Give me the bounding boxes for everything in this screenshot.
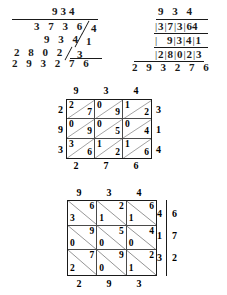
lat2-cell-1-1: 5 0 [97,226,126,251]
tl-product: 2 9 3 2 7 6 [12,58,92,69]
lat2-cell-2-2: 2 1 [127,250,156,275]
tl-partial-1-digits: 3 7 3 6 [34,21,85,32]
lat1-top-label-0: 9 [74,86,79,96]
tl-multiplicand: 934 [52,6,78,17]
lat1-cell-2-0: 3 6 [67,139,95,158]
lat2-top-label-2: 4 [137,188,142,198]
lat1-right-label-0: 3 [156,105,161,115]
tr-partial-2: |9|3|4|1 [154,35,201,46]
lat1-cell-0-1-tens: 0 [97,101,102,111]
lat1-top-label-2: 4 [134,86,139,96]
tr-partial-3: |2|8|0|2|3 [154,49,202,60]
lat2-right-outer-1: 7 [172,231,177,241]
lat2-cell-2-0-tens: 7 [90,251,95,261]
figure-page: 934 3 7 3 6 4 9 3 4 1 2 8 0 2 3 2 9 3 2 … [0,0,227,295]
lat2-cell-1-0-ones: 0 [70,239,75,249]
lat2-cell-0-2-ones: 1 [129,214,134,224]
lat1-cell-0-1-ones: 9 [115,108,120,118]
lat1-top-label-1: 3 [104,86,109,96]
lat2-grid: 6 3 2 1 6 1 9 0 5 0 [67,200,157,276]
lat2-cell-1-2: 4 0 [127,226,156,251]
lat2-cell-0-2: 6 1 [127,201,156,226]
lat2-cell-0-0-tens: 6 [90,202,95,212]
lat1-bottom-label-1: 7 [104,161,109,171]
lat2-cell-2-1-ones: 0 [99,264,104,274]
lat1-cell-2-1-tens: 1 [97,140,102,150]
lat2-right-outer-2: 2 [172,253,177,263]
lat1-cell-1-2: 0 4 [123,119,151,138]
lattice-top: 9 3 4 2 9 3 3 1 4 2 7 6 2 7 0 9 [58,86,176,166]
lat1-cell-0-0-tens: 2 [69,101,74,111]
tr-r2-out: 1 [196,34,202,46]
tr-partial-1: |3|7|3|64 [154,21,198,32]
lat2-cell-1-1-tens: 5 [119,227,124,237]
lat2-right-inner-1: 1 [157,231,162,241]
lat1-cell-0-1: 0 9 [95,100,123,119]
lat1-cell-1-1: 0 5 [95,119,123,138]
lattice-bottom: 9 3 4 4 1 3 6 7 2 2 9 3 6 3 2 1 [47,188,187,288]
lat1-cell-1-0-tens: 0 [69,120,74,130]
lat2-cell-0-0-ones: 3 [70,214,75,224]
lat1-cell-0-2-tens: 1 [125,101,130,111]
lat2-top-label-1: 3 [107,188,112,198]
lat1-left-label-1: 9 [58,125,63,135]
lat2-cell-2-2-tens: 2 [149,251,154,261]
lat1-cell-1-0: 0 9 [67,119,95,138]
lat2-bottom-label-0: 2 [77,279,82,289]
lat1-cell-2-2-ones: 6 [144,148,149,158]
lat2-cell-0-1: 2 1 [97,201,126,226]
lat2-cell-1-0-tens: 9 [90,227,95,237]
lat1-grid: 2 7 0 9 1 2 0 9 0 5 [66,99,152,159]
lat2-right-inner-2: 3 [157,253,162,263]
lat2-bottom-label-1: 9 [107,279,112,289]
lat1-cell-2-2: 1 6 [123,139,151,158]
lat2-cell-2-1: 9 0 [97,250,126,275]
lat1-cell-1-2-ones: 4 [144,127,149,137]
lat2-cell-1-2-tens: 4 [149,227,154,237]
lat2-cell-2-2-ones: 1 [129,264,134,274]
lat1-left-label-0: 2 [58,105,63,115]
lat2-cell-2-1-tens: 9 [119,251,124,261]
lat2-right-outer-0: 6 [172,209,177,219]
lat2-vertical-rule [166,200,167,276]
tr-r3-out: 3 [196,48,202,60]
tl-partial-2-carry: 1 [86,36,95,47]
lat1-bottom-label-2: 6 [134,161,139,171]
tr-bar: | [154,35,158,46]
tr-r1-out: 4 [192,20,198,32]
lat1-cell-2-1: 1 2 [95,139,123,158]
long-multiplication-slashed: 934 3 7 3 6 4 9 3 4 1 2 8 0 2 3 2 9 3 2 … [12,6,112,66]
long-multiplication-boxed: 9 3 4 |3|7|3|64 |9|3|4|1 |2|8|0|2|3 2 9 … [140,6,224,68]
lat1-cell-1-1-tens: 0 [97,120,102,130]
lat1-right-label-2: 4 [156,145,161,155]
lat1-cell-0-2-ones: 2 [144,108,149,118]
lat1-cell-0-0-ones: 7 [87,108,92,118]
lat2-cell-0-1-tens: 2 [119,202,124,212]
lat1-bottom-label-0: 2 [74,161,79,171]
lat2-cell-2-0-ones: 2 [70,264,75,274]
lat1-cell-2-0-ones: 6 [87,148,92,158]
lat2-cell-1-1-ones: 0 [99,239,104,249]
lat1-right-label-1: 1 [156,125,161,135]
lat1-cell-2-2-tens: 1 [125,140,130,150]
lat1-left-label-2: 3 [58,145,63,155]
lat2-cell-0-2-tens: 6 [149,202,154,212]
lat2-cell-2-0: 7 2 [68,250,97,275]
lat1-cell-2-1-ones: 2 [115,148,120,158]
lat2-top-label-0: 9 [77,188,82,198]
lat2-bottom-label-2: 3 [137,279,142,289]
lat2-cell-1-2-ones: 0 [129,239,134,249]
lat1-cell-2-0-tens: 3 [69,140,74,150]
lat1-cell-1-1-ones: 5 [115,127,120,137]
tl-partial-1-carry: 4 [91,23,100,34]
lat1-cell-0-2: 1 2 [123,100,151,119]
lat1-cell-1-0-ones: 9 [87,127,92,137]
lat2-right-inner-0: 4 [157,209,162,219]
lat2-cell-0-1-ones: 1 [99,214,104,224]
tr-product: 2 9 3 2 7 6 [132,62,212,73]
lat1-cell-0-0: 2 7 [67,100,95,119]
lat2-cell-0-0: 6 3 [68,201,97,226]
lat1-cell-1-2-tens: 0 [125,120,130,130]
tr-multiplicand: 9 3 4 [158,6,195,17]
lat2-cell-1-0: 9 0 [68,226,97,251]
